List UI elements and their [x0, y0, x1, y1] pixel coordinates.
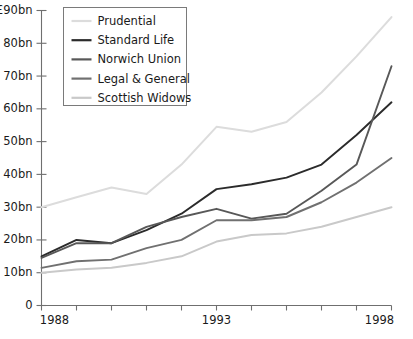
y-axis: 010bn20bn30bn40bn50bn60bn70bn80bn£90bn: [0, 3, 47, 312]
y-tick-label: 60bn: [3, 101, 32, 115]
series-line-scottish-widows: [42, 207, 392, 273]
x-tick-label: 1988: [40, 313, 69, 327]
line-chart: 010bn20bn30bn40bn50bn60bn70bn80bn£90bn 1…: [0, 0, 413, 339]
series-line-legal-general: [42, 158, 392, 268]
series-line-standard-life: [42, 102, 392, 256]
legend-label: Scottish Widows: [98, 91, 192, 105]
legend-label: Prudential: [98, 14, 156, 28]
y-tick-label: 50bn: [3, 134, 32, 148]
x-tick-label: 1993: [202, 313, 231, 327]
chart-canvas: 010bn20bn30bn40bn50bn60bn70bn80bn£90bn 1…: [0, 0, 413, 339]
y-tick-label: 0: [25, 298, 32, 312]
y-tick-label: 80bn: [3, 36, 32, 50]
y-tick-label: 30bn: [3, 200, 32, 214]
legend-label: Norwich Union: [98, 52, 181, 66]
chart-legend: PrudentialStandard LifeNorwich UnionLega…: [64, 8, 192, 106]
y-tick-label: 20bn: [3, 232, 32, 246]
x-tick-label: 1998: [365, 313, 394, 327]
y-tick-label: 40bn: [3, 167, 32, 181]
y-tick-label: £90bn: [0, 3, 33, 17]
legend-label: Legal & General: [98, 72, 190, 86]
y-tick-label: 70bn: [3, 69, 32, 83]
legend-label: Standard Life: [98, 33, 175, 47]
x-axis: 198819931998: [40, 306, 394, 327]
y-tick-label: 10bn: [3, 265, 32, 279]
